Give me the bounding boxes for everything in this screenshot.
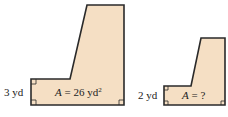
large-area-label: A = 26 yd2 [54, 86, 102, 98]
small-side-label: 2 yd [138, 89, 158, 101]
large-side-label: 3 yd [4, 86, 24, 98]
small-area-label: A = ? [181, 89, 205, 101]
large-figure: 3 yd A = 26 yd2 [4, 5, 124, 105]
small-figure: 2 yd A = ? [138, 38, 225, 105]
similar-figures-diagram: 3 yd A = 26 yd2 2 yd A = ? [0, 0, 228, 117]
